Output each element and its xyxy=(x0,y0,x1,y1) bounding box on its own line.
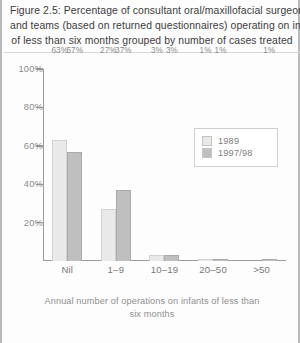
bar-1989-nil[interactable]: 63% xyxy=(52,140,67,261)
x-tick-label-nil: Nil xyxy=(45,264,89,275)
bar-holder: 37% xyxy=(116,56,131,261)
bar-1989-1-9[interactable]: 27% xyxy=(101,209,116,261)
x-tick-label-1-9: 1–9 xyxy=(94,264,138,275)
bar-group-10-19: 3% 3% xyxy=(142,56,186,261)
x-axis-caption-line-1: Annual number of operations on infants o… xyxy=(20,295,284,308)
bar-value-label: 1% xyxy=(215,46,227,55)
legend-swatch-icon xyxy=(202,148,212,158)
chart-legend: 1989 1997/98 xyxy=(194,128,278,167)
bar-1997-1-9[interactable]: 37% xyxy=(116,190,131,261)
bar-1997-20-50[interactable]: 1% xyxy=(213,259,228,261)
bar-value-label: 1% xyxy=(263,46,275,55)
figure-page: Figure 2.5: Percentage of consultant ora… xyxy=(0,0,300,343)
x-tick-label-20-50: 20–50 xyxy=(191,264,235,275)
x-axis-caption-line-2: six months xyxy=(20,308,284,321)
bar-holder: 57% xyxy=(67,56,82,261)
x-tick-labels: Nil 1–9 10–19 20–50 >50 xyxy=(43,264,286,275)
bar-1997-10-19[interactable]: 3% xyxy=(164,255,179,261)
y-tick-label: 80% xyxy=(9,102,43,112)
x-axis-caption: Annual number of operations on infants o… xyxy=(20,295,284,321)
chart-plot-area: 100% 80% 60% 40% 20% 63% xyxy=(2,56,300,271)
figure-title: Figure 2.5: Percentage of consultant ora… xyxy=(10,3,294,49)
bar-1997-nil[interactable]: 57% xyxy=(67,152,82,261)
figure-title-line-2: and teams (based on returned questionnai… xyxy=(10,18,294,33)
bar-value-label: 57% xyxy=(66,46,83,55)
legend-item-1997-98[interactable]: 1997/98 xyxy=(202,148,270,158)
x-tick-label-over-50: >50 xyxy=(240,264,284,275)
bar-value-label: 3% xyxy=(151,46,163,55)
figure-title-line-1: Figure 2.5: Percentage of consultant ora… xyxy=(10,3,294,18)
legend-label: 1997/98 xyxy=(218,148,253,158)
y-tick-label: 60% xyxy=(9,141,43,151)
bar-holder: 3% xyxy=(164,56,179,261)
bar-group-nil: 63% 57% xyxy=(45,56,89,261)
bar-value-label: 1% xyxy=(200,46,212,55)
y-tick-label: 40% xyxy=(9,179,43,189)
legend-label: 1989 xyxy=(218,136,239,146)
bar-1989-10-19[interactable]: 3% xyxy=(149,255,164,261)
x-tick-label-10-19: 10–19 xyxy=(142,264,186,275)
bar-holder: 63% xyxy=(52,56,67,261)
bar-holder: 27% xyxy=(101,56,116,261)
bar-1997-over-50[interactable]: 1% xyxy=(262,259,277,261)
bar-1989-20-50[interactable]: 1% xyxy=(198,259,213,261)
bar-value-label: 37% xyxy=(115,46,132,55)
legend-item-1989[interactable]: 1989 xyxy=(202,136,270,146)
y-tick-label: 20% xyxy=(9,218,43,228)
bar-group-1-9: 27% 37% xyxy=(94,56,138,261)
bar-value-label: 3% xyxy=(166,46,178,55)
legend-swatch-icon xyxy=(202,136,212,146)
bar-holder: 3% xyxy=(149,56,164,261)
y-tick-label: 100% xyxy=(9,64,43,74)
